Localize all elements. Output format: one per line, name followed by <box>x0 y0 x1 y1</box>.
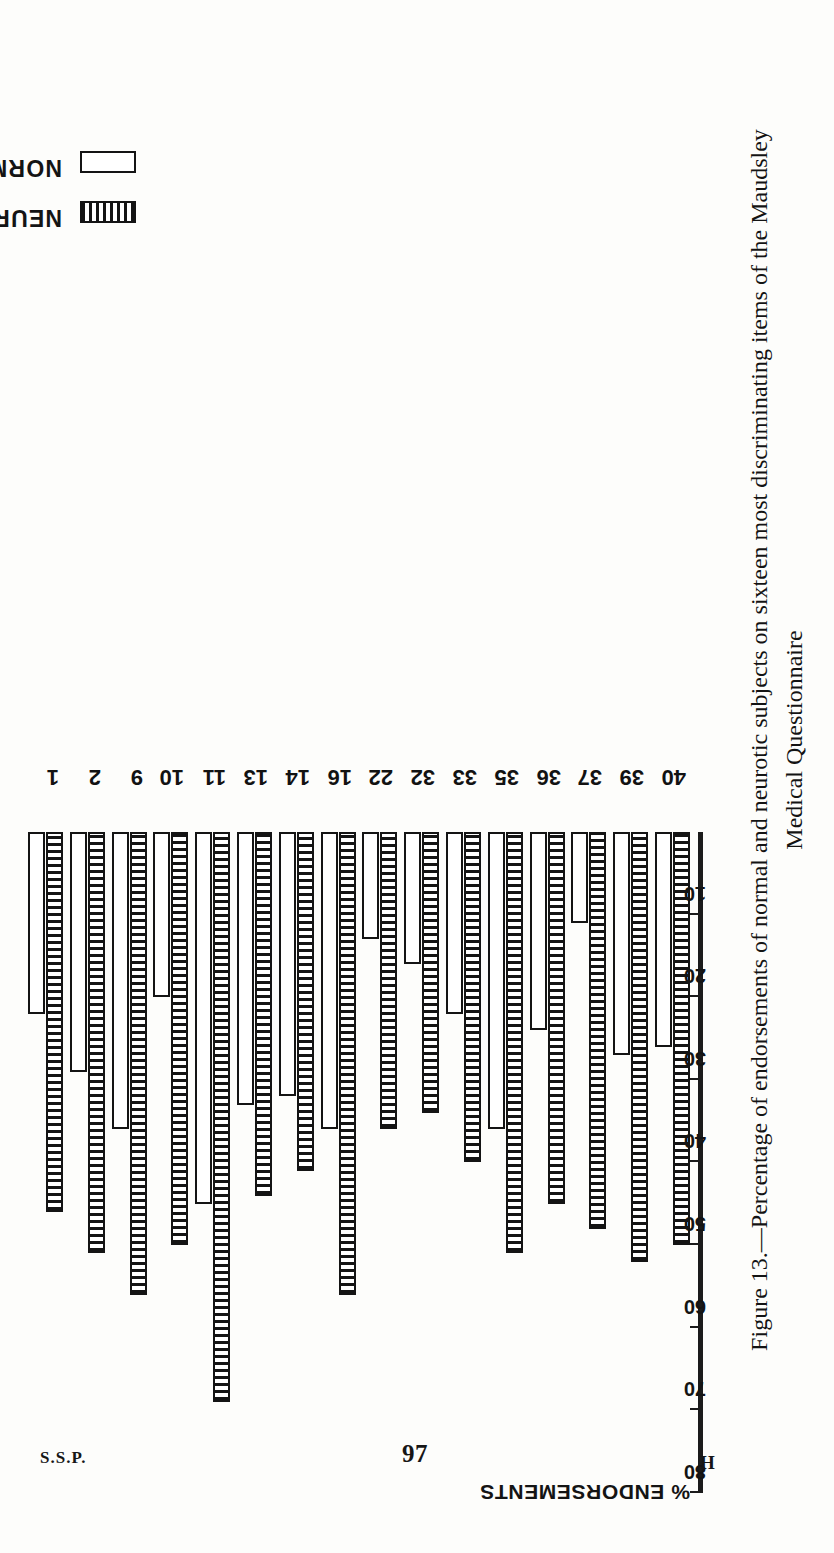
plot-area: 12910111314162232333536373940 8070605040… <box>0 0 834 1553</box>
bar-normals <box>321 832 338 1129</box>
bar-neurotics <box>464 832 481 1163</box>
bar-neurotics <box>171 832 188 1245</box>
bar-neurotics <box>88 832 105 1253</box>
bar-neurotics <box>631 832 648 1262</box>
bar-neurotics <box>422 832 439 1113</box>
caption-line-2: Medical Questionnaire <box>777 90 812 1390</box>
bar-neurotics <box>213 832 230 1402</box>
bar-normals <box>237 832 254 1105</box>
bar-neurotics <box>255 832 272 1196</box>
bar-neurotics <box>506 832 523 1253</box>
axis-tick-label: 50 <box>684 1212 706 1235</box>
bar-normals <box>362 832 379 939</box>
axis-tick-label: 10 <box>684 882 706 905</box>
bar-normals <box>153 832 170 997</box>
category-label: 32 <box>411 764 435 790</box>
bar-neurotics <box>339 832 356 1295</box>
category-label: 1 <box>47 764 59 790</box>
axis-tick <box>690 1408 699 1410</box>
bar-normals <box>404 832 421 964</box>
category-label: 14 <box>285 764 309 790</box>
legend-swatch-normals-icon <box>80 151 136 173</box>
bar-neurotics <box>46 832 63 1212</box>
axis-tick-label: 40 <box>684 1130 706 1153</box>
signature-letter: H <box>700 1452 715 1474</box>
category-label: 35 <box>494 764 518 790</box>
bar-normals <box>446 832 463 1014</box>
signature-mark: S.S.P. <box>40 1448 86 1468</box>
category-label: 16 <box>327 764 351 790</box>
legend-label-normals: NORMALS <box>0 154 62 181</box>
bar-normals <box>530 832 547 1030</box>
bar-normals <box>613 832 630 1055</box>
category-label: 13 <box>244 764 268 790</box>
caption-line-1: Figure 13.—Percentage of endorsements of… <box>746 129 772 1351</box>
axis-tick <box>690 1326 699 1328</box>
axis-title: % ENDORSEMENTS <box>480 1480 690 1504</box>
category-label: 40 <box>662 764 686 790</box>
bar-normals <box>488 832 505 1129</box>
bar-normals <box>655 832 672 1047</box>
bar-normals <box>195 832 212 1204</box>
legend-label-neurotics: NEUROTICS <box>0 204 62 231</box>
bar-neurotics <box>589 832 606 1229</box>
category-label: 39 <box>620 764 644 790</box>
bar-neurotics <box>297 832 314 1171</box>
bar-normals <box>571 832 588 923</box>
figure-caption: Figure 13.—Percentage of endorsements of… <box>742 90 812 1390</box>
bar-normals <box>28 832 45 1014</box>
category-label: 22 <box>369 764 393 790</box>
category-label: 2 <box>89 764 101 790</box>
axis-tick <box>690 1161 699 1163</box>
bar-normals <box>70 832 87 1072</box>
category-label: 9 <box>130 764 142 790</box>
category-label: 37 <box>578 764 602 790</box>
legend-swatch-neurotics-icon <box>80 201 136 223</box>
bar-neurotics <box>130 832 147 1295</box>
book-page: 12910111314162232333536373940 8070605040… <box>0 0 834 1553</box>
bar-normals <box>279 832 296 1096</box>
bar-neurotics <box>548 832 565 1204</box>
page-number: 97 <box>402 1440 428 1468</box>
axis-tick <box>690 1491 699 1493</box>
axis-tick-label: 30 <box>684 1047 706 1070</box>
axis-tick-label: 60 <box>684 1295 706 1318</box>
category-label: 33 <box>453 764 477 790</box>
axis-tick-label: 20 <box>684 964 706 987</box>
bar-normals <box>112 832 129 1129</box>
bar-neurotics <box>380 832 397 1129</box>
category-label: 10 <box>160 764 184 790</box>
axis-tick <box>690 1078 699 1080</box>
axis-tick-label: 70 <box>684 1377 706 1400</box>
axis-tick <box>690 1243 699 1245</box>
category-label: 36 <box>536 764 560 790</box>
category-label: 11 <box>203 764 226 790</box>
figure-plate: 12910111314162232333536373940 8070605040… <box>0 0 834 1553</box>
axis-tick <box>690 995 699 997</box>
bar-group-container: 12910111314162232333536373940 <box>0 0 700 1553</box>
axis-tick <box>690 913 699 915</box>
